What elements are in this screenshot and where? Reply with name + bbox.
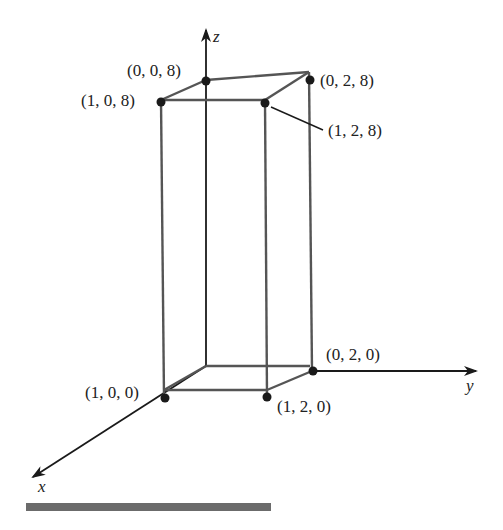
bottom-divider-bar bbox=[26, 503, 271, 511]
label-1-2-0: (1, 2, 0) bbox=[277, 397, 331, 416]
label-1-0-0: (1, 0, 0) bbox=[85, 383, 139, 402]
point-1-0-8 bbox=[157, 98, 166, 107]
point-0-2-8 bbox=[306, 76, 315, 85]
y-axis-label: y bbox=[464, 376, 474, 395]
point-0-0-8 bbox=[202, 77, 211, 86]
label-0-0-8: (0, 0, 8) bbox=[127, 61, 181, 80]
label-0-2-0: (0, 2, 0) bbox=[326, 345, 380, 364]
leader-line-1-2-8 bbox=[271, 107, 323, 130]
label-1-2-8: (1, 2, 8) bbox=[328, 121, 382, 140]
label-0-2-8: (0, 2, 8) bbox=[320, 71, 374, 90]
point-1-2-0 bbox=[263, 393, 272, 402]
box-top-face bbox=[161, 72, 309, 100]
label-1-0-8: (1, 0, 8) bbox=[81, 91, 135, 110]
point-1-2-8 bbox=[261, 99, 270, 108]
box-vertical-edges bbox=[161, 72, 312, 397]
z-axis-label: z bbox=[212, 27, 220, 46]
x-axis-label: x bbox=[37, 477, 46, 496]
point-0-2-0 bbox=[309, 367, 318, 376]
box-bottom-face bbox=[164, 366, 312, 390]
point-1-0-0 bbox=[161, 394, 170, 403]
box-diagram: (0, 0, 8) (1, 0, 8) (0, 2, 8) (1, 2, 8) … bbox=[0, 0, 503, 530]
